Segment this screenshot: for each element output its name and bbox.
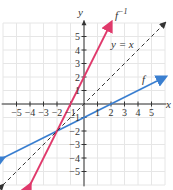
svg-text:−3: −3 xyxy=(69,139,80,150)
f-label: f xyxy=(142,73,147,85)
svg-text:2: 2 xyxy=(75,72,80,83)
svg-text:−4: −4 xyxy=(69,153,80,164)
svg-text:−2: −2 xyxy=(69,126,80,137)
svg-text:3: 3 xyxy=(75,58,80,69)
svg-text:1: 1 xyxy=(95,107,100,118)
graph: −5−4−3−2−112345−5−4−3−2−112345 y x f−1 y… xyxy=(0,0,173,190)
svg-text:1: 1 xyxy=(75,85,80,96)
svg-text:4: 4 xyxy=(75,45,80,56)
svg-text:−3: −3 xyxy=(38,107,49,118)
svg-text:−2: −2 xyxy=(52,107,63,118)
svg-text:−5: −5 xyxy=(69,166,80,177)
x-axis-label: x xyxy=(165,98,171,110)
svg-text:−1: −1 xyxy=(69,112,80,123)
svg-text:4: 4 xyxy=(136,107,141,118)
svg-text:−5: −5 xyxy=(11,107,22,118)
svg-text:5: 5 xyxy=(149,107,154,118)
svg-text:−4: −4 xyxy=(25,107,36,118)
identity-label: y = x xyxy=(110,38,134,50)
y-axis-label: y xyxy=(77,6,83,18)
finv-label: f−1 xyxy=(115,7,127,21)
svg-text:3: 3 xyxy=(122,107,127,118)
svg-text:5: 5 xyxy=(75,31,80,42)
svg-text:2: 2 xyxy=(109,107,114,118)
